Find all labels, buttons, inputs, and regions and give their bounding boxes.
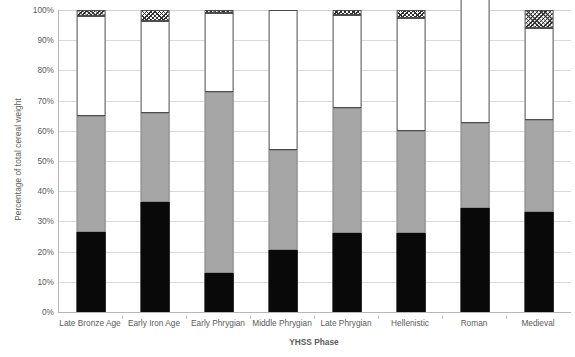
bar-segment-hatched[interactable]: [141, 10, 170, 21]
stacked-bar[interactable]: [77, 10, 106, 312]
x-axis-tick-mark: [378, 315, 379, 319]
bar-segment-white[interactable]: [461, 0, 490, 123]
x-axis-tick-label: Medieval: [506, 315, 570, 335]
bar-segment-white[interactable]: [205, 13, 234, 92]
bar-slot: [123, 10, 187, 312]
y-axis-tick-label: 30%: [18, 216, 54, 226]
x-axis-tick-label: Early Iron Age: [122, 315, 186, 335]
bar-segment-black[interactable]: [141, 202, 170, 312]
bar-slot: [251, 10, 315, 312]
x-axis-tick-mark: [122, 315, 123, 319]
y-axis-tick-label: 20%: [18, 247, 54, 257]
x-axis-tick-label: Roman: [442, 315, 506, 335]
bar-segment-black[interactable]: [77, 232, 106, 312]
bar-segment-white[interactable]: [141, 21, 170, 113]
bar-segment-black[interactable]: [333, 233, 362, 312]
bar-segment-white[interactable]: [269, 10, 298, 150]
x-axis-tick-labels: Late Bronze AgeEarly Iron AgeEarly Phryg…: [58, 315, 570, 335]
bar-segment-black[interactable]: [525, 212, 554, 312]
plot-area: [58, 10, 571, 313]
x-axis-tick-label: Middle Phrygian: [250, 315, 314, 335]
bar-segment-hatched[interactable]: [525, 10, 554, 28]
y-axis-tick-label: 70%: [18, 96, 54, 106]
bar-segment-white[interactable]: [397, 18, 426, 131]
stacked-bar[interactable]: [333, 10, 362, 312]
bar-segment-black[interactable]: [461, 208, 490, 312]
stacked-bar[interactable]: [525, 10, 554, 312]
bars-layer: [59, 10, 571, 312]
y-axis-tick-label: 90%: [18, 35, 54, 45]
bar-segment-gray[interactable]: [397, 131, 426, 234]
x-axis-tick-label: Late Phrygian: [314, 315, 378, 335]
y-axis-tick-label: 60%: [18, 126, 54, 136]
bar-segment-hatched[interactable]: [333, 10, 362, 15]
y-axis-tick-label: 50%: [18, 156, 54, 166]
bar-segment-gray[interactable]: [141, 113, 170, 202]
y-axis-tick-label: 80%: [18, 65, 54, 75]
stacked-bar-chart: Percentage of total cereal weight 0%10%2…: [0, 0, 575, 357]
stacked-bar[interactable]: [461, 10, 490, 312]
x-axis-tick-mark: [506, 315, 507, 319]
y-axis-tick-label: 40%: [18, 186, 54, 196]
y-axis-tick-label: 10%: [18, 277, 54, 287]
bar-segment-hatched[interactable]: [397, 10, 426, 18]
bar-segment-gray[interactable]: [269, 150, 298, 250]
bar-segment-white[interactable]: [77, 16, 106, 116]
x-axis-tick-label: Hellenistic: [378, 315, 442, 335]
bar-slot: [443, 10, 507, 312]
y-axis-tick-labels: 0%10%20%30%40%50%60%70%80%90%100%: [18, 0, 54, 357]
stacked-bar[interactable]: [269, 10, 298, 312]
bar-segment-gray[interactable]: [461, 123, 490, 208]
bar-segment-gray[interactable]: [77, 116, 106, 232]
bar-segment-hatched[interactable]: [77, 10, 106, 16]
stacked-bar[interactable]: [205, 10, 234, 312]
x-axis-tick-label: Early Phrygian: [186, 315, 250, 335]
bar-segment-black[interactable]: [205, 273, 234, 312]
x-axis-title: YHSS Phase: [58, 337, 570, 347]
bar-segment-black[interactable]: [397, 233, 426, 312]
bar-slot: [315, 10, 379, 312]
stacked-bar[interactable]: [141, 10, 170, 312]
bar-segment-gray[interactable]: [525, 120, 554, 212]
bar-segment-gray[interactable]: [333, 108, 362, 233]
bar-slot: [507, 10, 571, 312]
bar-slot: [187, 10, 251, 312]
x-axis-tick-label: Late Bronze Age: [58, 315, 122, 335]
bar-slot: [379, 10, 443, 312]
x-axis-tick-mark: [442, 315, 443, 319]
y-axis-tick-label: 100%: [18, 5, 54, 15]
bar-segment-black[interactable]: [269, 250, 298, 312]
bar-segment-white[interactable]: [333, 15, 362, 109]
y-axis-tick-label: 0%: [18, 307, 54, 317]
bar-segment-gray[interactable]: [205, 92, 234, 273]
bar-slot: [59, 10, 123, 312]
stacked-bar[interactable]: [397, 10, 426, 312]
bar-segment-white[interactable]: [525, 28, 554, 120]
x-axis-tick-mark: [250, 315, 251, 319]
x-axis-tick-mark: [314, 315, 315, 319]
x-axis-tick-mark: [186, 315, 187, 319]
bar-segment-hatched[interactable]: [205, 10, 234, 13]
